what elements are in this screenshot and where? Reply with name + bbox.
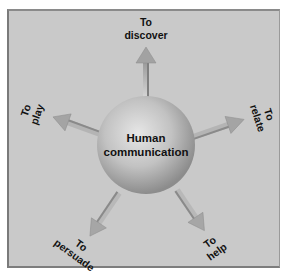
label-to-relate: To relate [248,99,280,133]
arrow-to-discover [136,47,156,98]
diagram-canvas: Human communication To discover To relat… [0,0,288,277]
arrow-to-persuade [82,188,126,241]
label-to-help: To help [197,231,229,263]
label-discover-line1: To [140,16,152,28]
arrow-to-play [50,108,103,142]
center-label-line1: Human [127,132,166,144]
center-label-line2: communication [104,146,189,158]
arrow-to-relate [190,111,247,146]
center-sphere [97,96,195,194]
label-to-play: To play [16,98,46,126]
label-to-persuade: To persuade [52,227,104,274]
label-persuade-line2: persuade [52,236,97,273]
label-relate-line2: relate [248,103,268,134]
arrow-to-help [170,185,212,236]
label-discover-line2: discover [124,29,167,41]
label-to-discover: To discover [124,16,167,41]
